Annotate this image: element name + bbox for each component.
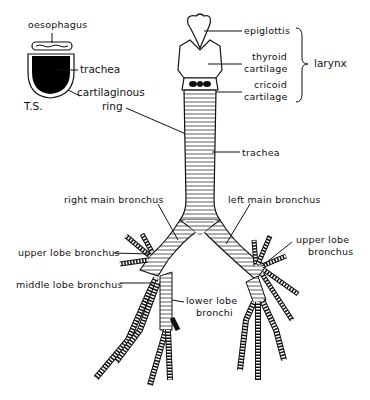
cross-section: oesophagus trachea cartilaginous ring T.… xyxy=(23,19,186,134)
trachea-ts-label: trachea xyxy=(80,63,120,75)
right-lung-bronchi: upper lobe bronchus middle lobe bronchus… xyxy=(16,234,237,385)
left-main-bronchus-label: left main bronchus xyxy=(228,194,321,205)
left-upper-lobe-bronchus-label-line1: upper lobe xyxy=(296,234,349,245)
oesophagus-label: oesophagus xyxy=(28,19,87,30)
cricoid-label-line2: cartilage xyxy=(244,91,287,102)
lower-lobe-bronchi-label-line2: bronchi xyxy=(196,307,233,318)
trachea-tube xyxy=(180,90,220,220)
epiglottis-label: epiglottis xyxy=(244,25,290,36)
larynx: epiglottis thyroid cartilage cricoid car… xyxy=(178,14,347,102)
larynx-label: larynx xyxy=(314,57,347,69)
trachea-diagram: oesophagus trachea cartilaginous ring T.… xyxy=(0,0,370,400)
trachea-label: trachea xyxy=(242,147,280,158)
lower-lobe-bronchi-label-line1: lower lobe xyxy=(186,295,237,306)
left-lung-bronchi: upper lobe bronchus xyxy=(240,234,353,380)
cartilaginous-label-line1: cartilaginous xyxy=(77,86,145,98)
middle-lobe-bronchus-label: middle lobe bronchus xyxy=(16,279,123,290)
larynx-brace xyxy=(296,28,308,102)
thyroid-label-line2: cartilage xyxy=(244,63,287,74)
right-main-bronchus-label: right main bronchus xyxy=(64,194,164,205)
right-upper-lobe-bronchus-label: upper lobe bronchus xyxy=(18,247,120,258)
ts-label: T.S. xyxy=(23,100,43,112)
thyroid-label-line1: thyroid xyxy=(252,51,287,62)
cricoid-label-line1: cricoid xyxy=(254,79,287,90)
left-upper-lobe-bronchus-label-line2: bronchus xyxy=(308,246,353,257)
cartilaginous-label-line2: ring xyxy=(102,100,123,112)
